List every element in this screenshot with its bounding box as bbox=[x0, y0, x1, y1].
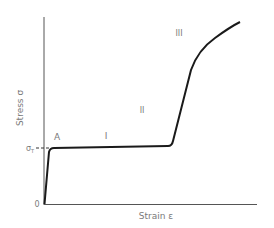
x-axis-label: Strain ε bbox=[139, 211, 174, 221]
stress-strain-chart: Stress σ Strain ε 0 σT A I II III bbox=[0, 0, 274, 228]
label-stage-i: I bbox=[105, 131, 108, 141]
sigma-t-label: σT bbox=[26, 144, 35, 154]
sigma-subscript: T bbox=[30, 148, 35, 154]
y-axis-label: Stress σ bbox=[15, 90, 25, 127]
origin-label: 0 bbox=[34, 200, 39, 209]
label-a: A bbox=[54, 132, 61, 142]
label-stage-ii: II bbox=[140, 106, 145, 115]
label-stage-iii: III bbox=[175, 29, 182, 38]
